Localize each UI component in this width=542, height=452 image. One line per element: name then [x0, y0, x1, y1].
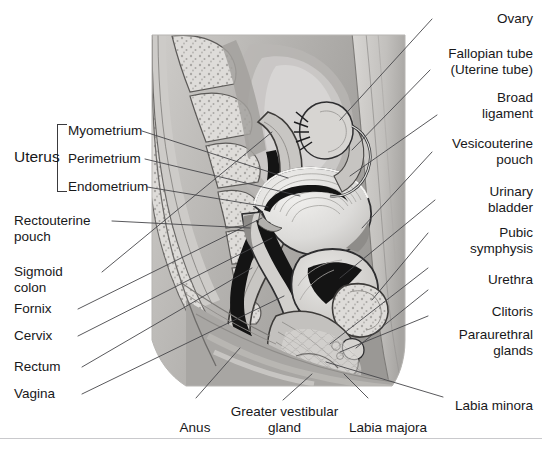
label-vesicouterine-pouch: Vesicouterine pouch	[333, 136, 533, 167]
label-rectum: Rectum	[14, 359, 61, 375]
label-greater-vestibular-gland: Greater vestibular gland	[222, 404, 347, 435]
label-urethra: Urethra	[353, 272, 533, 288]
label-endometrium: Endometrium	[68, 179, 148, 195]
label-urinary-bladder: Urinary bladder	[353, 184, 533, 215]
label-fornix: Fornix	[14, 301, 52, 317]
label-perimetrium: Perimetrium	[68, 151, 141, 167]
label-paraurethral-glands: Paraurethral glands	[353, 327, 533, 358]
label-pubic-symphysis: Pubic symphysis	[353, 225, 533, 256]
label-fallopian-tube: Fallopian tube (Uterine tube)	[333, 46, 533, 77]
label-vagina: Vagina	[14, 386, 55, 402]
label-labia-minora: Labia minora	[353, 398, 533, 414]
bottom-divider	[0, 438, 542, 439]
uterus-group-label: Uterus	[14, 148, 60, 166]
label-rectouterine-pouch: Rectouterine pouch	[14, 213, 91, 244]
label-labia-majora: Labia majora	[333, 420, 443, 436]
label-ovary: Ovary	[353, 11, 533, 27]
label-sigmoid-colon: Sigmoid colon	[14, 264, 63, 295]
label-cervix: Cervix	[14, 328, 52, 344]
label-broad-ligament: Broad ligament	[353, 90, 533, 121]
anatomy-figure: Uterus Myometrium Perimetrium Endometriu…	[0, 0, 542, 452]
label-clitoris: Clitoris	[353, 304, 533, 320]
label-myometrium: Myometrium	[68, 123, 142, 139]
